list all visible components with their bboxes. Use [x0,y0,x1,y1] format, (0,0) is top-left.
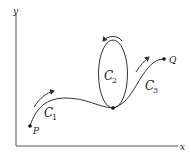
label-c2: C 2 [104,69,117,85]
svg-text:2: 2 [112,76,117,85]
svg-text:3: 3 [153,86,158,95]
path-diagram: y x P Q C 1 C 2 C 3 [0,0,191,156]
curve-c1 [30,98,113,126]
curve-c3 [113,59,164,108]
point-junction [111,106,115,110]
y-axis-label: y [12,6,19,16]
label-c1: C 1 [44,106,57,122]
svg-text:1: 1 [52,113,57,122]
label-c3: C 3 [145,79,158,95]
label-p: P [32,126,40,136]
label-q: Q [169,55,177,65]
point-p [28,124,32,128]
x-axis-label: x [180,142,185,152]
point-q [162,57,166,61]
